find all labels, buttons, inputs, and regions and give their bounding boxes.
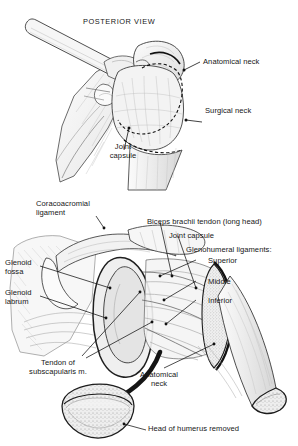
label-glenohumeral-ligaments: Glenohumeral ligaments: [186,245,272,254]
label-glenoid-fossa: Glenoid fossa [5,258,32,277]
panel-title-posterior-view: POSTERIOR VIEW [83,17,155,26]
label-surgical-neck: Surgical neck [205,106,251,115]
label-gh-superior: Superior [208,256,237,265]
label-gh-inferior: Inferior [208,296,232,305]
label-anatomical-neck-top: Anatomical neck [203,57,259,66]
label-joint-capsule-top: Joint capsule [100,142,146,161]
label-gh-middle: Middle [208,277,231,286]
label-biceps-brachii-tendon: Biceps brachii tendon (long head) [147,217,262,226]
label-coracoacromial-ligament: Coracoacromial ligament [36,199,90,218]
label-anatomical-neck-bottom: Anatomical neck [130,370,188,389]
label-joint-capsule-bottom: Joint capsule [169,231,214,240]
label-tendon-of-subscapularis: Tendon of subscapularis m. [13,358,103,377]
label-glenoid-labrum: Glenoid labrum [5,288,32,307]
label-head-of-humerus-removed: Head of humerus removed [148,424,239,433]
panel-posterior-view [25,19,202,190]
